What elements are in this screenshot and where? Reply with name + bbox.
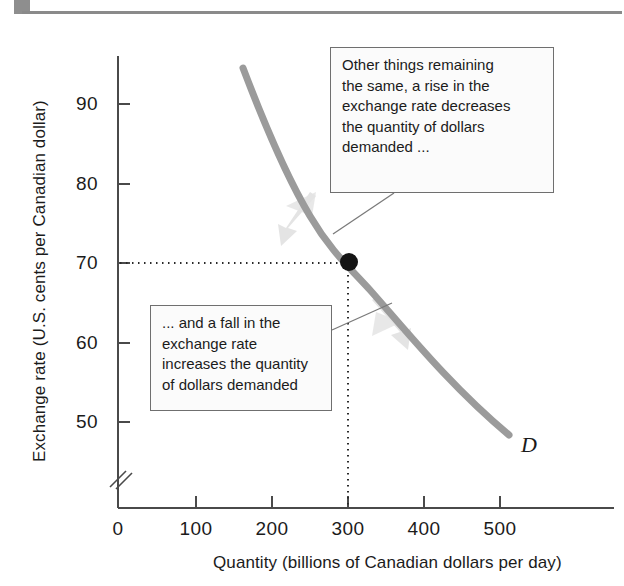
y-tick-label-90: 90 <box>58 93 98 115</box>
y-tick-label-80: 80 <box>58 173 98 195</box>
x-tick-label-200: 200 <box>247 518 297 540</box>
x-tick-label-500: 500 <box>475 518 525 540</box>
rise-callout-leader-line <box>333 193 394 234</box>
y-tick-label-70: 70 <box>58 252 98 274</box>
equilibrium-point <box>340 253 358 271</box>
fall-annotation-line-1: ... and a fall in the <box>162 313 322 334</box>
rise-annotation-line-1: Other things remaining <box>342 55 544 76</box>
x-axis-title: Quantity (billions of Canadian dollars p… <box>213 553 562 573</box>
rise-annotation-line-4: the quantity of dollars <box>342 117 544 138</box>
y-tick-label-60: 60 <box>58 332 98 354</box>
rise-annotation-box: Other things remaining the same, a rise … <box>330 47 554 193</box>
y-tick-marks <box>118 104 130 422</box>
rise-annotation-line-2: the same, a rise in the <box>342 76 544 97</box>
x-tick-label-300: 300 <box>323 518 373 540</box>
fall-annotation-line-3: increases the quantity <box>162 354 322 375</box>
fall-annotation-box: ... and a fall in the exchange rate incr… <box>150 305 332 411</box>
x-tick-label-100: 100 <box>171 518 221 540</box>
fall-annotation-line-2: exchange rate <box>162 334 322 355</box>
figure-container: 90 80 70 60 50 0 100 200 300 400 500 Exc… <box>0 0 624 586</box>
fall-annotation-line-4: of dollars demanded <box>162 375 322 396</box>
x-tick-label-400: 400 <box>399 518 449 540</box>
demand-curve-label: D <box>521 432 537 458</box>
y-tick-label-50: 50 <box>58 411 98 433</box>
y-axis-title: Exchange rate (U.S. cents per Canadian d… <box>30 100 50 462</box>
rise-annotation-line-5: demanded ... <box>342 137 544 158</box>
x-tick-label-0: 0 <box>93 518 143 540</box>
rise-annotation-line-3: exchange rate decreases <box>342 96 544 117</box>
